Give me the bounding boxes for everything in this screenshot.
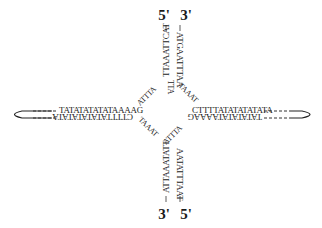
left-strand-bottom: CTTTTATATATATATA — [52, 112, 133, 122]
junction-top-outer: TTA — [166, 80, 175, 95]
junction-top-left: ATTTA — [135, 84, 158, 107]
left-arm: TATATATATATAAAAG CTTTTATATATATATA — [15, 105, 144, 122]
junction-bottom-left: TAAAT — [137, 115, 161, 139]
top-5prime-label: 5' — [158, 7, 170, 23]
right-arm: CTTTTATATATATATA TATATATATAAAAG — [187, 105, 310, 122]
cruciform-dna-diagram: 5' 3' TTAAATTCAT ATGAATTTAA ATTAAATATT A… — [0, 0, 322, 228]
right-hairpin-loop — [290, 111, 310, 118]
top-strand-left: TTAAATTCAT — [161, 22, 171, 77]
junction-bottom-right: ATTTA — [161, 123, 184, 146]
top-3prime-label: 3' — [180, 7, 192, 23]
top-strand-right: ATGAATTTAA — [175, 32, 185, 88]
bottom-strand-left: ATTAAATATT — [161, 140, 171, 193]
right-strand-bottom: TATATATATAAAAG — [187, 112, 262, 122]
bottom-arm: ATTAAATATT AATATTTAAT 3' 5' — [158, 140, 192, 222]
bottom-strand-right: AATATTTAAT — [175, 148, 185, 201]
top-arm: 5' 3' TTAAATTCAT ATGAATTTAA — [158, 7, 192, 88]
left-hairpin-loop — [15, 111, 53, 118]
junction-top-right: TAAAT — [177, 81, 201, 105]
bottom-3prime-label: 3' — [158, 206, 170, 222]
bottom-5prime-label: 5' — [180, 206, 192, 222]
